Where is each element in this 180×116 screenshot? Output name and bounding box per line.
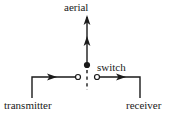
label-transmitter: transmitter bbox=[4, 100, 52, 111]
transmitter-terminal-circle bbox=[76, 75, 81, 80]
label-switch: switch bbox=[97, 62, 126, 73]
label-receiver: receiver bbox=[126, 100, 161, 111]
transmitter-branch-line bbox=[32, 77, 75, 98]
receiver-terminal-circle bbox=[95, 75, 100, 80]
aerial-switch-diagram: aerial switch transmitter receiver bbox=[0, 0, 180, 116]
switch-contact-dot bbox=[84, 62, 90, 68]
receiver-branch-line bbox=[100, 77, 140, 98]
label-aerial: aerial bbox=[64, 2, 88, 13]
